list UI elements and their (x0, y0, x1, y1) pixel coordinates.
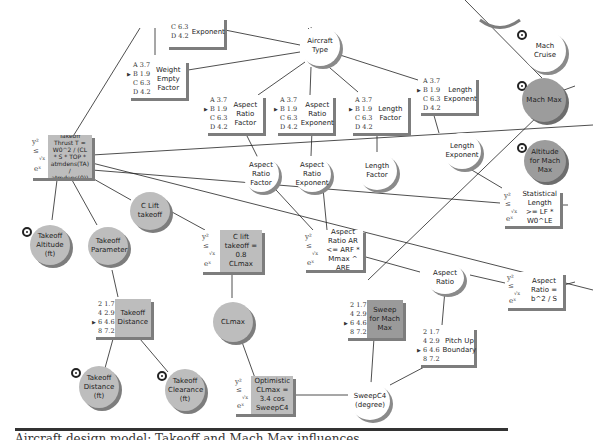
node-mach-max[interactable]: Mach Max (522, 78, 566, 122)
node-c-lift-takeoff[interactable]: C Lift takeoff (130, 192, 170, 230)
target-icon[interactable] (22, 227, 32, 237)
table-pitch-up-boundary[interactable]: 2 1.74 2.96 4.68 7.2 Pitch Up Boundary (418, 327, 474, 365)
node-takeoff-clearance[interactable]: Takeoff Clearance (ft) (165, 369, 205, 411)
formula-optimistic-clmax[interactable]: y²≤√xeˣ Optimistic CLmax = 3.4 cos Sweep… (233, 376, 293, 414)
table-length-factor[interactable]: A 3.7B 1.9C 6.3D 4.2 Length Factor (350, 95, 408, 133)
node-mach-cruise[interactable]: Mach Cruise (524, 30, 566, 72)
bottom-divider (15, 428, 508, 431)
node-length-exponent[interactable]: Length Exponent (443, 133, 481, 169)
node-aspect-ratio-factor[interactable]: Aspect Ratio Factor (243, 156, 279, 192)
table-weight-empty-factor[interactable]: A 3.7B 1.9C 6.3D 4.2 Weight Empty Factor (128, 60, 186, 98)
table-length-exponent[interactable]: A 3.7B 1.9C 6.3D 4.2 Length Exponent (418, 77, 476, 113)
function-icon: y²≤√xeˣ (200, 230, 220, 272)
function-icon: y²≤√xeˣ (233, 376, 251, 414)
target-icon[interactable] (71, 368, 81, 378)
node-aspect-ratio-exponent[interactable]: Aspect Ratio Exponent (293, 156, 331, 192)
node-sweep-c4[interactable]: SweepC4 (degree) (350, 382, 390, 420)
formula-statistical-length[interactable]: y²≤√xeˣ Statistical Length >= LF * W0^LE (502, 190, 560, 226)
function-icon: y²≤√xeˣ (502, 190, 519, 226)
table-aspect-ratio-factor[interactable]: A 3.7B 1.9C 6.3D 4.2 Aspect Ratio Factor (205, 95, 263, 133)
function-icon: y²≤√xeˣ (30, 135, 48, 178)
node-length-factor[interactable]: Length Factor (357, 152, 397, 190)
figure-caption: Aircraft design model: Takeoff and Mach … (15, 433, 359, 440)
diagram-canvas: Aircraft Type Mach Cruise Mach Max Altit… (0, 0, 593, 440)
node-takeoff-parameter[interactable]: Takeoff Parameter (88, 227, 128, 265)
formula-takeoff-thrust[interactable]: y²≤√xeˣ Takeoff Thrust T = W0^2 / (CL * … (30, 135, 92, 178)
node-clmax[interactable]: CLmax (213, 302, 253, 342)
function-icon: y²≤√xeˣ (505, 272, 525, 308)
formula-aspect-ratio-constraint[interactable]: y²≤√xeˣ Aspect Ratio AR <= ARF * Mmax ^ … (303, 230, 363, 270)
node-aircraft-type[interactable]: Aircraft Type (300, 26, 340, 66)
table-exponent-top[interactable]: C 6.3D 4.2 Exponent (166, 17, 224, 47)
formula-aspect-ratio-def[interactable]: y²≤√xeˣ Aspect Ratio = b^2 / S (505, 272, 563, 308)
node-altitude-mach-max[interactable]: Altitude for Mach Max (524, 140, 566, 182)
node-takeoff-altitude[interactable]: Takeoff Altitude (ft) (30, 225, 70, 265)
table-sweep-mach-max[interactable]: 2 1.74 2.96 4.68 7.2 Sweep for Mach Max (345, 300, 403, 338)
table-takeoff-distance[interactable]: 2 1.74 2.96 4.68 7.2 Takeoff Distance (93, 299, 151, 337)
formula-c-lift-takeoff[interactable]: y²≤√xeˣ C lift takeoff = 0.8 CLmax (200, 230, 262, 272)
function-icon: y²≤√xeˣ (303, 230, 323, 270)
target-icon[interactable] (157, 371, 167, 381)
table-aspect-ratio-exponent[interactable]: A 3.7B 1.9C 6.3D 4.2 Aspect Ratio Expone… (275, 95, 333, 133)
node-aspect-ratio[interactable]: Aspect Ratio (426, 262, 464, 294)
target-icon[interactable] (517, 30, 527, 40)
node-takeoff-distance-ft[interactable]: Takeoff Distance (ft) (79, 366, 119, 408)
